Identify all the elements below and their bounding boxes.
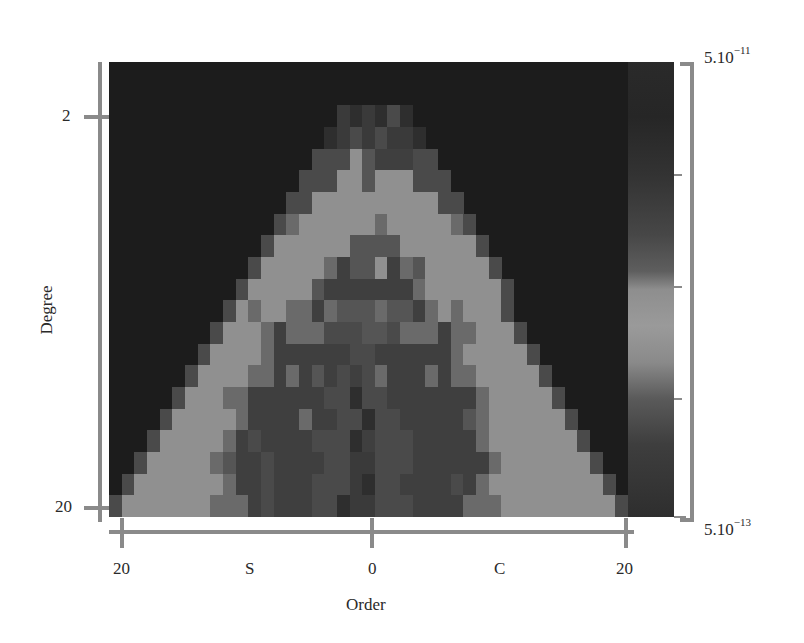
heatmap-cell [299,235,312,257]
heatmap-cell [337,387,350,409]
heatmap-cell [223,387,236,409]
y-axis-line [98,62,102,522]
heatmap-cell [312,257,325,279]
heatmap-cell [337,344,350,366]
heatmap-cell [463,322,476,344]
heatmap-cell [362,365,375,387]
heatmap-cell [425,300,438,322]
heatmap-cell [375,279,388,301]
heatmap-cell [223,452,236,474]
heatmap-cell [223,430,236,452]
heatmap-cell [451,452,464,474]
heatmap-cell [362,430,375,452]
heatmap-cell [324,495,337,517]
heatmap-cell [413,149,426,171]
heatmap-cell [337,322,350,344]
heatmap-cell [337,192,350,214]
heatmap-cell [312,300,325,322]
heatmap-cell [286,365,299,387]
heatmap-cell [337,149,350,171]
heatmap-cell [337,300,350,322]
heatmap-cell [248,257,261,279]
heatmap-grid [109,62,628,517]
heatmap-cell [312,344,325,366]
heatmap-cell [261,322,274,344]
heatmap-cell [476,387,489,409]
heatmap-cell [438,192,451,214]
heatmap-cell [463,452,476,474]
heatmap-cell [552,495,565,517]
heatmap-cell [387,127,400,149]
heatmap-cell [312,279,325,301]
heatmap-cell [324,170,337,192]
heatmap-cell [248,474,261,496]
heatmap-cell [350,257,363,279]
heatmap-cell [362,192,375,214]
heatmap-cell [489,430,502,452]
heatmap-cell [299,322,312,344]
x-tick-label-0: 0 [368,559,377,579]
heatmap-cell [501,495,514,517]
heatmap-cell [210,495,223,517]
heatmap-cell [286,235,299,257]
heatmap-cell [261,300,274,322]
heatmap-cell [489,300,502,322]
heatmap-cell [248,344,261,366]
heatmap-cell [425,474,438,496]
heatmap-cell [337,170,350,192]
heatmap-cell [501,365,514,387]
heatmap-cell [274,257,287,279]
heatmap-cell [438,452,451,474]
x-tick-label-C: C [494,559,505,579]
heatmap-cell [387,409,400,431]
heatmap-cell [274,387,287,409]
heatmap-cell [350,300,363,322]
x-tick-left-20 [120,518,124,548]
heatmap-cell [413,192,426,214]
heatmap-cell [172,387,185,409]
heatmap-cell [476,430,489,452]
heatmap-cell [400,365,413,387]
heatmap-cell [438,344,451,366]
heatmap-cell [261,365,274,387]
heatmap-cell [539,365,552,387]
heatmap-cell [375,365,388,387]
heatmap-cell [501,430,514,452]
heatmap-cell [413,344,426,366]
heatmap-cell [527,430,540,452]
heatmap-cell [400,452,413,474]
heatmap-cell [236,279,249,301]
heatmap-cell [286,452,299,474]
heatmap-cell [248,430,261,452]
heatmap-cell [413,127,426,149]
heatmap-cell [387,214,400,236]
heatmap-cell [514,322,527,344]
heatmap-cell [362,322,375,344]
heatmap-cell [476,495,489,517]
heatmap-cell [375,149,388,171]
heatmap-cell [337,452,350,474]
heatmap-cell [400,235,413,257]
heatmap-cell [489,279,502,301]
heatmap-cell [463,300,476,322]
heatmap-cell [312,387,325,409]
heatmap-cell [387,300,400,322]
x-tick-right-20 [624,518,628,548]
heatmap-cell [425,149,438,171]
heatmap-cell [147,474,160,496]
heatmap-cell [501,279,514,301]
heatmap-cell [489,322,502,344]
heatmap-cell [527,452,540,474]
heatmap-cell [362,474,375,496]
heatmap-cell [236,452,249,474]
heatmap-cell [400,257,413,279]
heatmap-cell [565,430,578,452]
heatmap-cell [337,105,350,127]
heatmap-cell [274,495,287,517]
heatmap-cell [387,105,400,127]
heatmap-cell [185,430,198,452]
heatmap-cell [387,192,400,214]
heatmap-cell [286,387,299,409]
heatmap-cell [425,257,438,279]
heatmap-cell [185,495,198,517]
